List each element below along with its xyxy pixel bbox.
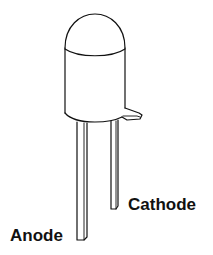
cathode-lead: [111, 120, 118, 209]
dome-body-seam: [65, 49, 125, 56]
anode-label: Anode: [10, 227, 63, 244]
anode-lead: [77, 122, 87, 240]
led-dome: [65, 14, 125, 48]
cathode-label: Cathode: [128, 196, 196, 213]
cathode-tab-inner: [123, 116, 140, 117]
body-bottom-edge: [65, 113, 122, 122]
cathode-tab: [122, 108, 142, 120]
led-diagram: [0, 0, 213, 255]
